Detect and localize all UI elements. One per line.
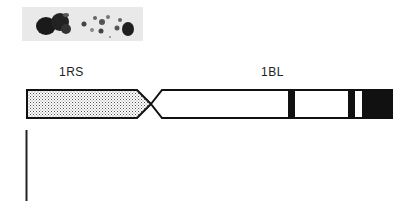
arm-1rs (27, 90, 151, 118)
terminal-block (362, 90, 392, 118)
arm-1bl (151, 90, 392, 118)
band-2 (348, 90, 355, 118)
chromosome-diagram (0, 0, 412, 208)
band-1 (288, 90, 295, 118)
